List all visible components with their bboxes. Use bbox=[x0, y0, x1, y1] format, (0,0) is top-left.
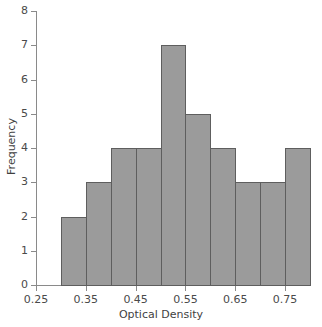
y-axis-tick-label: 2 bbox=[0, 211, 28, 222]
y-axis-tick bbox=[31, 11, 37, 12]
y-axis-title: Frequency bbox=[5, 102, 18, 192]
x-axis-tick-label: 0.75 bbox=[260, 294, 310, 305]
x-axis-tick-label: 0.65 bbox=[210, 294, 260, 305]
x-axis-title: Optical Density bbox=[0, 308, 322, 321]
histogram-bar bbox=[136, 148, 162, 286]
y-axis-tick-label: 6 bbox=[0, 74, 28, 85]
x-axis-tick-label: 0.25 bbox=[11, 294, 61, 305]
y-axis-tick bbox=[31, 45, 37, 46]
histogram-bar bbox=[210, 148, 236, 286]
y-axis-tick-label: 7 bbox=[0, 39, 28, 50]
histogram-bar bbox=[260, 182, 286, 286]
y-axis-tick-label: 8 bbox=[0, 5, 28, 16]
y-axis-tick-label: 1 bbox=[0, 245, 28, 256]
y-axis-tick bbox=[31, 148, 37, 149]
histogram-bar bbox=[285, 148, 311, 286]
histogram-bar bbox=[161, 45, 187, 286]
histogram-bar bbox=[235, 182, 261, 286]
x-axis-tick-label: 0.45 bbox=[111, 294, 161, 305]
y-axis-tick bbox=[31, 217, 37, 218]
x-axis-tick bbox=[36, 285, 37, 291]
y-axis-tick bbox=[31, 114, 37, 115]
y-axis-tick bbox=[31, 182, 37, 183]
histogram-bar bbox=[86, 182, 112, 286]
histogram-chart: 012345678 0.250.350.450.550.650.75 Optic… bbox=[0, 0, 322, 327]
x-axis-tick-label: 0.35 bbox=[61, 294, 111, 305]
histogram-bar bbox=[185, 114, 211, 286]
y-axis-tick bbox=[31, 251, 37, 252]
x-axis-tick-label: 0.55 bbox=[160, 294, 210, 305]
y-axis-tick-label: 0 bbox=[0, 279, 28, 290]
histogram-bar bbox=[61, 217, 87, 287]
y-axis-tick bbox=[31, 80, 37, 81]
histogram-bar bbox=[111, 148, 137, 286]
